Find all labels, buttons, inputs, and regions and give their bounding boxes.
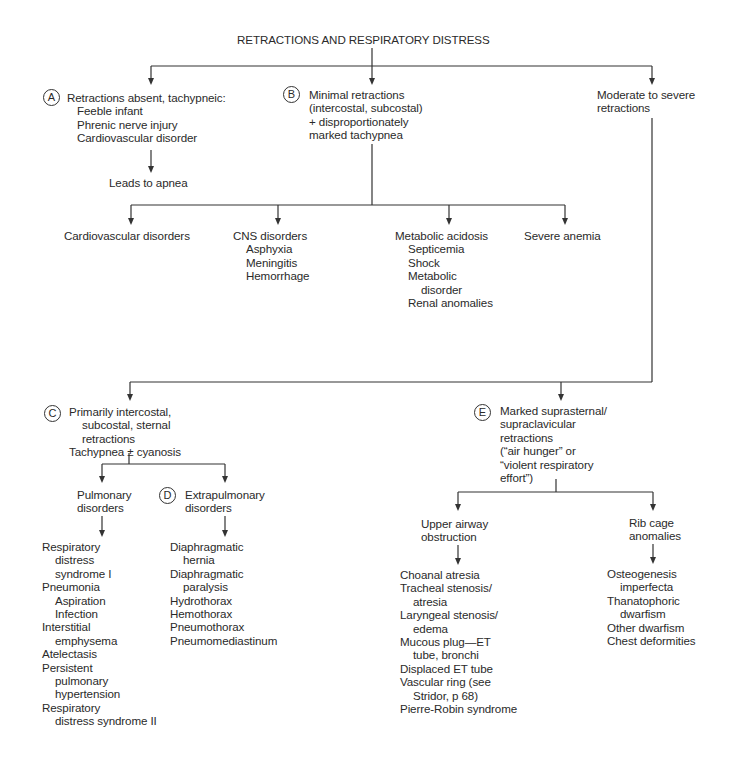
node-c-line: Primarily intercostal, — [69, 405, 181, 418]
node-c-line: retractions — [69, 432, 181, 445]
extrapulmonary-heading-line: disorders — [185, 501, 265, 514]
node-upper-airway-list: Choanal atresia Tracheal stenosis/ atres… — [400, 568, 517, 715]
node-a-item: Phrenic nerve injury — [67, 118, 226, 131]
rib-cage-item: imperfecta — [607, 580, 696, 593]
badge-b: B — [283, 86, 300, 103]
node-rib-cage-heading: Rib cage anomalies — [629, 516, 681, 543]
metabolic-item: Septicemia — [395, 242, 493, 255]
upper-airway-heading-line: Upper airway — [421, 517, 488, 530]
node-a: Retractions absent, tachypneic: Feeble i… — [67, 91, 226, 145]
rib-cage-item: Osteogenesis — [607, 567, 696, 580]
pulmonary-item: Respiratory — [42, 701, 157, 714]
metabolic-item: Renal anomalies — [395, 296, 493, 309]
upper-airway-item: Mucous plug—ET — [400, 635, 517, 648]
node-apnea: Leads to apnea — [109, 176, 188, 189]
upper-airway-item: atresia — [400, 595, 517, 608]
extrapulmonary-item: Pneumomediastinum — [170, 634, 277, 647]
diagram-title: RETRACTIONS AND RESPIRATORY DISTRESS — [237, 33, 490, 46]
rib-cage-item: Chest deformities — [607, 634, 696, 647]
upper-airway-item: Choanal atresia — [400, 568, 517, 581]
pulmonary-heading-line: disorders — [77, 501, 132, 514]
node-c-line: Tachypnea ± cyanosis — [69, 445, 181, 458]
node-pulmonary-list: Respiratory distress syndrome I Pneumoni… — [42, 540, 157, 728]
pulmonary-heading-line: Pulmonary — [77, 488, 132, 501]
rib-cage-item: Other dwarfism — [607, 621, 696, 634]
pulmonary-item: pulmonary — [42, 674, 157, 687]
pulmonary-item: Aspiration — [42, 594, 157, 607]
node-metabolic-acidosis: Metabolic acidosis Septicemia Shock Meta… — [395, 229, 493, 309]
badge-d: D — [159, 487, 176, 504]
node-a-item: Feeble infant — [67, 104, 226, 117]
extrapulmonary-item: paralysis — [170, 580, 277, 593]
node-b-line: Minimal retractions — [309, 88, 423, 101]
rib-cage-item: Thanatophoric — [607, 594, 696, 607]
node-e-line: effort”) — [500, 471, 607, 484]
metabolic-heading: Metabolic acidosis — [395, 229, 493, 242]
extrapulmonary-item: Hydrothorax — [170, 594, 277, 607]
node-b-line: marked tachypnea — [309, 128, 423, 141]
upper-airway-item: Stridor, p 68) — [400, 689, 517, 702]
rib-cage-heading-line: Rib cage — [629, 516, 681, 529]
pulmonary-item: syndrome I — [42, 567, 157, 580]
metabolic-item: disorder — [395, 283, 493, 296]
node-e-line: “violent respiratory — [500, 458, 607, 471]
upper-airway-item: Vascular ring (see — [400, 675, 517, 688]
metabolic-item: Shock — [395, 256, 493, 269]
node-extrapulmonary-heading: Extrapulmonary disorders — [185, 488, 265, 515]
node-moderate-line: retractions — [597, 101, 695, 114]
upper-airway-item: Laryngeal stenosis/ — [400, 608, 517, 621]
node-pulmonary-heading: Pulmonary disorders — [77, 488, 132, 515]
node-rib-cage-list: Osteogenesis imperfecta Thanatophoric dw… — [607, 567, 696, 647]
pulmonary-item: emphysema — [42, 634, 157, 647]
node-upper-airway-heading: Upper airway obstruction — [421, 517, 488, 544]
node-c: Primarily intercostal, subcostal, sterna… — [69, 405, 181, 459]
metabolic-item: Metabolic — [395, 269, 493, 282]
node-extrapulmonary-list: Diaphragmatic hernia Diaphragmatic paral… — [170, 540, 277, 647]
node-b-line: (intercostal, subcostal) — [309, 101, 423, 114]
badge-a: A — [43, 89, 60, 106]
upper-airway-item: edema — [400, 622, 517, 635]
upper-airway-item: Pierre-Robin syndrome — [400, 702, 517, 715]
node-a-heading: Retractions absent, tachypneic: — [67, 91, 226, 104]
node-e: Marked suprasternal/ supraclavicular ret… — [500, 404, 607, 484]
extrapulmonary-item: Diaphragmatic — [170, 540, 277, 553]
extrapulmonary-item: Hemothorax — [170, 607, 277, 620]
pulmonary-item: Interstitial — [42, 620, 157, 633]
node-e-line: supraclavicular — [500, 417, 607, 430]
upper-airway-item: Displaced ET tube — [400, 662, 517, 675]
pulmonary-item: Persistent — [42, 661, 157, 674]
node-moderate-severe: Moderate to severe retractions — [597, 88, 695, 115]
extrapulmonary-item: hernia — [170, 553, 277, 566]
rib-cage-heading-line: anomalies — [629, 529, 681, 542]
pulmonary-item: distress — [42, 553, 157, 566]
extrapulmonary-heading-line: Extrapulmonary — [185, 488, 265, 501]
pulmonary-item: Respiratory — [42, 540, 157, 553]
extrapulmonary-item: Pneumothorax — [170, 620, 277, 633]
node-e-line: (“air hunger” or — [500, 444, 607, 457]
node-cns-disorders: CNS disorders Asphyxia Meningitis Hemorr… — [233, 229, 309, 283]
pulmonary-item: Pneumonia — [42, 580, 157, 593]
node-b-line: + disproportionately — [309, 115, 423, 128]
node-c-line: subcostal, sternal — [69, 418, 181, 431]
node-severe-anemia: Severe anemia — [524, 229, 601, 242]
rib-cage-item: dwarfism — [607, 607, 696, 620]
pulmonary-item: distress syndrome II — [42, 714, 157, 727]
badge-c: C — [44, 405, 61, 422]
cns-item: Meningitis — [233, 256, 309, 269]
node-e-line: retractions — [500, 431, 607, 444]
badge-e: E — [474, 404, 491, 421]
extrapulmonary-item: Diaphragmatic — [170, 567, 277, 580]
pulmonary-item: Atelectasis — [42, 647, 157, 660]
node-e-line: Marked suprasternal/ — [500, 404, 607, 417]
pulmonary-item: hypertension — [42, 687, 157, 700]
pulmonary-item: Infection — [42, 607, 157, 620]
node-moderate-line: Moderate to severe — [597, 88, 695, 101]
node-cardiovascular-disorders: Cardiovascular disorders — [64, 229, 190, 242]
upper-airway-item: Tracheal stenosis/ — [400, 581, 517, 594]
upper-airway-item: tube, bronchi — [400, 648, 517, 661]
upper-airway-heading-line: obstruction — [421, 530, 488, 543]
node-b: Minimal retractions (intercostal, subcos… — [309, 88, 423, 142]
cns-item: Asphyxia — [233, 242, 309, 255]
cns-heading: CNS disorders — [233, 229, 309, 242]
flowchart: RETRACTIONS AND RESPIRATORY DISTRESS A R… — [0, 0, 745, 763]
